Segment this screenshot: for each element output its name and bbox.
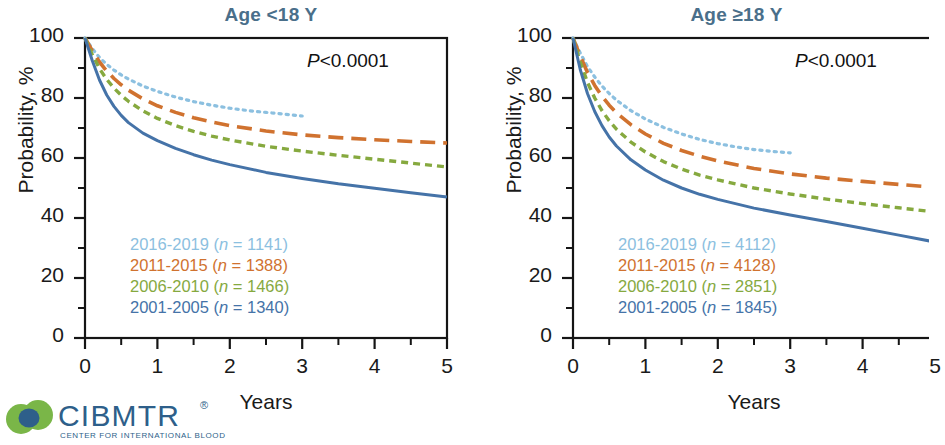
y-tick-label: 20 — [0, 263, 64, 287]
legend-label: 2016-2019 ( — [130, 235, 219, 253]
legend-n-symbol: n — [706, 256, 715, 274]
legend-n-symbol: n — [707, 277, 716, 295]
series-line-2016-2019 — [85, 38, 302, 116]
x-tick-label: 0 — [543, 354, 603, 378]
x-tick-label: 1 — [615, 354, 675, 378]
series-line-2001-2005 — [85, 38, 447, 197]
x-tick-label: 0 — [55, 354, 115, 378]
y-tick-label: 40 — [452, 203, 552, 227]
legend-item: 2006-2010 (n = 1466) — [130, 276, 289, 297]
x-tick-label: 1 — [127, 354, 187, 378]
legend-item: 2011-2015 (n = 4128) — [618, 255, 777, 276]
series-line-2016-2019 — [573, 38, 790, 153]
legend-n-symbol: n — [707, 235, 716, 253]
legend-n-value: = 4112) — [716, 235, 776, 253]
y-tick-label: 100 — [0, 23, 64, 47]
panel-age-18-and-over: Age ≥18 Y Probability, % P<0.0001 2016-2… — [488, 0, 929, 445]
x-axis-label-right: Years — [573, 390, 935, 414]
x-tick-label: 5 — [417, 354, 477, 378]
legend-n-value: = 1340) — [228, 298, 289, 316]
legend-item: 2001-2005 (n = 1845) — [618, 297, 777, 318]
legend-label: 2006-2010 ( — [130, 277, 219, 295]
y-tick-label: 20 — [452, 263, 552, 287]
y-tick-label: 0 — [0, 323, 64, 347]
legend-n-symbol: n — [219, 298, 228, 316]
y-tick-label: 60 — [0, 143, 64, 167]
legend-label: 2001-2005 ( — [618, 298, 707, 316]
legend-right: 2016-2019 (n = 4112)2011-2015 (n = 4128)… — [618, 234, 777, 318]
p-value-text: P<0.0001 — [307, 50, 389, 72]
x-tick-label: 2 — [688, 354, 748, 378]
legend-label: 2016-2019 ( — [618, 235, 707, 253]
legend-n-value: = 2851) — [716, 277, 777, 295]
series-line-2006-2010 — [85, 38, 447, 167]
x-tick-label: 5 — [905, 354, 945, 378]
legend-n-symbol: n — [707, 298, 716, 316]
p-value-text: P<0.0001 — [795, 50, 877, 72]
legend-n-value: = 1388) — [227, 256, 288, 274]
legend-n-value: = 1141) — [228, 235, 288, 253]
cibmtr-mark-icon — [4, 395, 56, 439]
legend-item: 2016-2019 (n = 4112) — [618, 234, 777, 255]
x-tick-label: 4 — [833, 354, 893, 378]
legend-label: 2006-2010 ( — [618, 277, 707, 295]
legend-left: 2016-2019 (n = 1141)2011-2015 (n = 1388)… — [130, 234, 289, 318]
legend-n-value: = 1466) — [228, 277, 289, 295]
y-tick-label: 80 — [452, 83, 552, 107]
legend-n-symbol: n — [219, 277, 228, 295]
legend-item: 2016-2019 (n = 1141) — [130, 234, 289, 255]
y-tick-label: 0 — [452, 323, 552, 347]
legend-label: 2011-2015 ( — [618, 256, 706, 274]
legend-n-value: = 1845) — [716, 298, 777, 316]
y-tick-label: 60 — [452, 143, 552, 167]
legend-item: 2006-2010 (n = 2851) — [618, 276, 777, 297]
x-tick-label: 4 — [345, 354, 405, 378]
legend-n-value: = 4128) — [715, 256, 776, 274]
series-line-2011-2015 — [85, 38, 447, 143]
legend-n-symbol: n — [219, 235, 228, 253]
x-tick-label: 2 — [200, 354, 260, 378]
cibmtr-tagline: CENTER FOR INTERNATIONAL BLOOD — [60, 431, 226, 440]
legend-label: 2001-2005 ( — [130, 298, 219, 316]
y-tick-label: 100 — [452, 23, 552, 47]
panel-age-under-18: Age <18 Y Probability, % P<0.0001 2016-2… — [0, 0, 470, 445]
legend-label: 2011-2015 ( — [130, 256, 218, 274]
legend-item: 2011-2015 (n = 1388) — [130, 255, 289, 276]
legend-item: 2001-2005 (n = 1340) — [130, 297, 289, 318]
y-tick-label: 80 — [0, 83, 64, 107]
x-tick-label: 3 — [760, 354, 820, 378]
y-tick-label: 40 — [0, 203, 64, 227]
cibmtr-wordmark: CIBMTR — [58, 399, 180, 433]
legend-n-symbol: n — [218, 256, 227, 274]
x-tick-label: 3 — [272, 354, 332, 378]
cibmtr-logo: CIBMTR ® CENTER FOR INTERNATIONAL BLOOD — [4, 395, 234, 445]
cibmtr-registered-icon: ® — [200, 399, 208, 411]
plot-area-left — [0, 0, 470, 400]
